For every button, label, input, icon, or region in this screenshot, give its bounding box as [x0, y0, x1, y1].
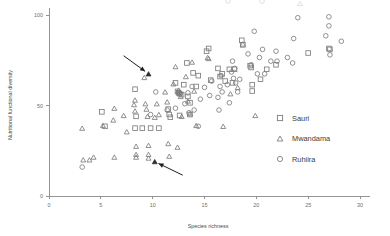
- data-point-circle: [274, 49, 279, 54]
- data-point-triangle: [91, 155, 96, 159]
- data-point-triangle: [163, 90, 168, 94]
- data-point-square: [264, 67, 269, 72]
- data-point-square: [306, 51, 311, 56]
- plot-canvas: 051015202530 050100 SauriMwandamaRuhiira…: [0, 0, 390, 236]
- data-point-circle: [80, 165, 85, 170]
- data-point-circle: [183, 101, 188, 106]
- data-point-square: [258, 77, 263, 82]
- data-point-triangle: [124, 130, 129, 134]
- data-point-square: [133, 126, 138, 131]
- data-point-circle: [192, 108, 197, 113]
- data-point-square: [216, 66, 221, 71]
- x-tick-label-10: 10: [150, 202, 156, 208]
- data-point-square: [148, 126, 153, 131]
- data-point-circle: [235, 90, 240, 95]
- y-tick-label-0: 0: [40, 193, 43, 199]
- legend-label-ruhiira: Ruhiira: [292, 155, 316, 164]
- clipped-marker-row: [226, 0, 303, 6]
- x-tick-label-30: 30: [357, 202, 363, 208]
- data-point-circle: [207, 93, 212, 98]
- y-tick-label-100: 100: [34, 12, 43, 18]
- data-point-circle: [148, 112, 153, 117]
- legend-label-sauri: Sauri: [292, 114, 310, 123]
- data-point-circle: [327, 15, 332, 20]
- data-point-square: [191, 71, 196, 76]
- y-axis-title: Nutritional functional diversity: [7, 70, 13, 140]
- clipped-marker-1: [260, 0, 265, 3]
- clipped-marker-0: [226, 0, 231, 3]
- data-point-triangle: [165, 100, 170, 104]
- clipped-marker-2: [298, 1, 303, 5]
- data-point-circle: [323, 34, 328, 39]
- data-point-circle: [202, 85, 207, 90]
- annotation-arrow-upper-head: [140, 67, 145, 72]
- y-tick-label-50: 50: [37, 103, 43, 109]
- axes-group: [49, 8, 370, 196]
- x-tick-label-5: 5: [99, 202, 102, 208]
- legend-item-ruhiira[interactable]: Ruhiira: [277, 155, 316, 164]
- data-point-triangle: [133, 98, 138, 102]
- legend-marker-triangle: [277, 136, 283, 141]
- data-point-square: [133, 87, 138, 92]
- data-point-triangle: [156, 112, 161, 116]
- data-point-circle: [262, 72, 267, 77]
- data-point-circle: [291, 36, 296, 41]
- data-point-triangle: [87, 158, 92, 162]
- data-point-triangle: [253, 113, 258, 117]
- data-point-circle: [327, 24, 332, 29]
- data-point-square: [140, 126, 145, 131]
- data-point-circle: [290, 61, 295, 66]
- data-point-triangle: [112, 155, 117, 159]
- series-ruhiira: [80, 15, 344, 170]
- data-point-circle: [237, 77, 242, 82]
- x-tick-label-25: 25: [305, 202, 311, 208]
- data-point-triangle: [221, 124, 226, 128]
- data-point-circle: [252, 29, 257, 34]
- data-point-triangle: [183, 74, 188, 78]
- x-tick-label-20: 20: [253, 202, 259, 208]
- data-point-square: [185, 61, 190, 66]
- y-axis-tick-labels: 050100: [34, 12, 43, 199]
- legend-item-sauri[interactable]: Sauri: [277, 114, 309, 123]
- data-point-circle: [255, 72, 260, 77]
- data-point-triangle: [154, 102, 159, 106]
- data-point-circle: [260, 47, 265, 52]
- data-point-triangle: [173, 64, 178, 68]
- data-point-triangle: [143, 102, 148, 106]
- data-point-square: [100, 110, 105, 115]
- axis-ticks: [46, 15, 360, 199]
- data-point-circle: [231, 76, 236, 81]
- x-axis-tick-labels: 051015202530: [48, 202, 364, 208]
- data-point-circle: [217, 108, 222, 113]
- data-point-circle: [218, 84, 223, 89]
- data-point-square: [250, 89, 255, 94]
- data-point-circle: [296, 15, 301, 20]
- data-point-triangle: [146, 143, 151, 147]
- x-tick-label-15: 15: [202, 202, 208, 208]
- data-point-triangle: [133, 109, 138, 113]
- data-point-triangle: [167, 154, 172, 158]
- data-point-circle: [339, 39, 344, 44]
- data-point-circle: [198, 97, 203, 102]
- data-point-circle: [227, 100, 232, 105]
- legend[interactable]: SauriMwandamaRuhiira: [277, 114, 331, 164]
- data-point-circle: [153, 90, 158, 95]
- data-point-triangle: [81, 158, 86, 162]
- legend-marker-square: [277, 115, 282, 120]
- data-point-triangle: [228, 92, 233, 96]
- x-tick-label-0: 0: [48, 202, 51, 208]
- legend-item-mwandama[interactable]: Mwandama: [277, 134, 331, 143]
- data-point-circle: [269, 59, 274, 64]
- annotation-arrow-lower-target-marker: [152, 159, 157, 163]
- data-markers: [80, 15, 344, 170]
- data-point-square: [134, 114, 139, 119]
- data-point-circle: [233, 81, 238, 86]
- scatter-plot-figure: 051015202530 050100 SauriMwandamaRuhiira…: [0, 0, 390, 236]
- legend-marker-circle: [277, 156, 282, 161]
- data-point-square: [181, 82, 186, 87]
- data-point-circle: [173, 106, 178, 111]
- data-point-circle: [328, 53, 333, 58]
- data-point-triangle: [175, 145, 180, 149]
- x-axis-title: Species richness: [188, 223, 229, 229]
- data-point-triangle: [192, 89, 197, 93]
